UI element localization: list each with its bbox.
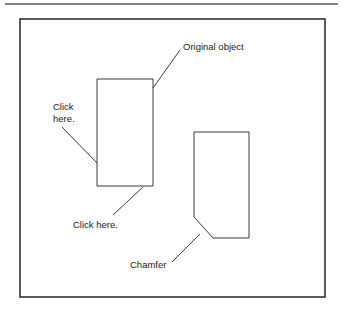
chamfer-diagram: Original object Click here. Click here. … [0,0,343,312]
figure-container: Original object Click here. Click here. … [0,0,343,312]
label-click-here-bottom: Click here. [73,219,118,230]
label-click-here-left-line1: Click [53,101,74,112]
figure-background [0,0,343,312]
label-click-here-left-line2: here. [53,113,75,124]
label-chamfer: Chamfer [130,259,166,270]
label-original-object: Original object [183,41,244,52]
